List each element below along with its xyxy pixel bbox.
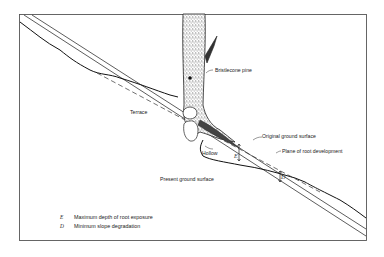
leader-original-ground	[253, 137, 262, 140]
label-E-marker: E	[234, 153, 238, 159]
label-D-marker: D	[281, 174, 285, 180]
branch-stub	[205, 36, 217, 63]
label-original-ground-surface: Original ground surface	[262, 134, 316, 139]
legend-item-E: EMaximum depth of root exposure	[60, 215, 153, 220]
diagram-figure: Bristlecone pine Terrace Hollow Original…	[0, 0, 384, 257]
root-bulge-upper	[183, 107, 197, 119]
legend-key: D	[60, 224, 74, 229]
leader-plane-root	[276, 151, 281, 153]
leader-bristlecone	[206, 70, 213, 73]
trunk-knot	[188, 76, 192, 80]
root-bulge-lower	[184, 121, 198, 141]
legend-key: E	[60, 215, 74, 220]
exposed-root	[198, 120, 239, 148]
legend-text: Maximum depth of root exposure	[74, 214, 153, 220]
label-terrace: Terrace	[130, 110, 147, 115]
leader-present-ground	[205, 146, 213, 149]
diagram-drawing	[0, 0, 384, 257]
label-hollow: Hollow	[202, 151, 218, 156]
label-present-ground-surface: Present ground surface	[160, 177, 214, 182]
label-plane-of-root-development: Plane of root development	[282, 149, 343, 154]
legend-text: Minimum slope degradation	[74, 223, 140, 229]
legend-item-D: DMinimum slope degradation	[60, 224, 140, 229]
label-bristlecone-pine: Bristlecone pine	[215, 68, 252, 73]
